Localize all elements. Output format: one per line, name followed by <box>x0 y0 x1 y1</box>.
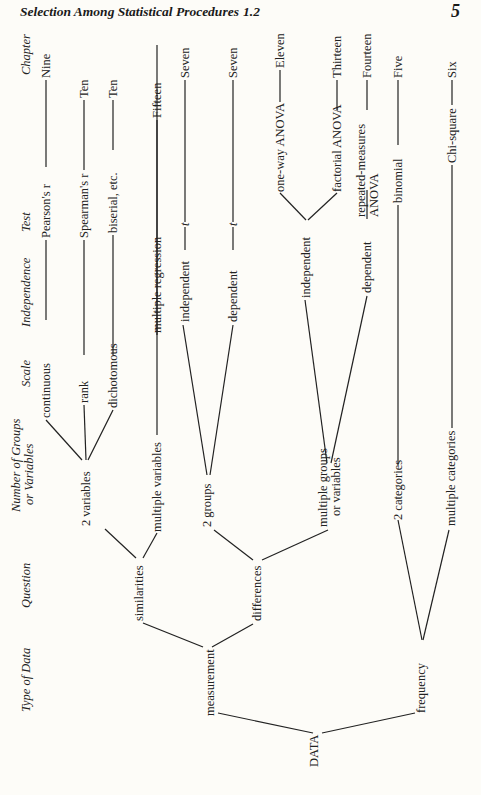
node-multiple-groups-line1: multiple groups <box>316 448 330 527</box>
test-chi-square: Chi-square <box>445 108 459 163</box>
chapter-oneway-anova: Eleven <box>273 33 287 68</box>
groups-nodes: 2 variables multiple variables 2 groups … <box>79 430 458 532</box>
header-groups-line2: or Variables <box>22 443 36 505</box>
test-t-dependent: t <box>226 222 240 226</box>
textbook-page: Selection Among Statistical Procedures 1… <box>0 0 481 795</box>
decision-tree-diagram: Chapter Test Independence Scale Number o… <box>0 0 481 795</box>
header-question: Question <box>19 563 33 608</box>
test-spearman: Spearman's r <box>77 173 91 238</box>
test-biserial: biserial, etc. <box>106 172 120 233</box>
test-binomial: binomial <box>391 158 405 203</box>
test-repeated-measures-line2: ANOVA <box>367 173 381 217</box>
node-independent-2groups: independent <box>178 260 192 322</box>
question-nodes: similarities differences <box>132 565 264 621</box>
chapter-spearman: Ten <box>77 79 91 98</box>
chapter-biserial: Ten <box>106 79 120 98</box>
test-pearson: Pearson's r <box>39 183 53 238</box>
node-measurement: measurement <box>203 649 217 716</box>
chapter-t-dependent: Seven <box>226 47 240 78</box>
chapter-binomial: Five <box>391 55 405 78</box>
node-similarities: similarities <box>132 565 146 621</box>
node-differences: differences <box>250 566 264 621</box>
header-groups-line1: Number of Groups <box>9 419 23 513</box>
header-type-of-data: Type of Data <box>19 648 33 712</box>
chapter-factorial-anova: Thirteen <box>330 35 344 78</box>
chapter-pearson: Nine <box>39 53 53 78</box>
node-2-groups: 2 groups <box>200 483 214 527</box>
node-frequency: frequency <box>414 662 428 713</box>
header-independence: Independence <box>19 257 33 328</box>
node-rank: rank <box>77 380 91 403</box>
chapter-chi-square: Six <box>445 61 459 78</box>
node-multiple-variables: multiple variables <box>150 442 164 532</box>
node-dependent-2groups: dependent <box>226 270 240 322</box>
header-test: Test <box>19 212 33 232</box>
node-data-root: DATA <box>307 735 321 767</box>
test-repeated-measures-line1: repeated-measures <box>354 124 368 217</box>
column-headers: Chapter Test Independence Scale Number o… <box>9 34 36 712</box>
header-chapter: Chapter <box>19 34 33 75</box>
test-factorial-anova: factorial ANOVA <box>330 104 344 192</box>
chapter-multiple-regression: Fifteen <box>150 82 164 118</box>
node-independent-mgroups: independent <box>299 236 313 298</box>
chapter-nodes: Nine Ten Ten Fifteen Seven Seven Eleven … <box>39 33 459 118</box>
node-multiple-categories: multiple categories <box>444 430 458 526</box>
test-oneway-anova: one-way ANOVA <box>273 103 287 192</box>
independence-nodes: independent dependent independent depend… <box>178 236 374 322</box>
node-dependent-mgroups: dependent <box>360 241 374 293</box>
node-2-categories: 2 categories <box>391 460 405 520</box>
type-of-data-nodes: DATA measurement frequency <box>203 649 428 767</box>
header-scale: Scale <box>19 359 33 387</box>
node-multiple-groups-line2: or variables <box>329 457 343 516</box>
chapter-repeated-measures: Fourteen <box>360 33 374 78</box>
scale-nodes: continuous rank dichotomous <box>39 343 120 418</box>
test-nodes: Pearson's r Spearman's r biserial, etc. … <box>39 103 459 333</box>
test-t-independent: t <box>178 222 192 226</box>
node-dichotomous: dichotomous <box>106 343 120 408</box>
node-2-variables: 2 variables <box>79 471 93 526</box>
node-continuous: continuous <box>39 363 53 418</box>
chapter-t-independent: Seven <box>178 47 192 78</box>
test-multiple-regression: multiple regression <box>150 236 164 333</box>
